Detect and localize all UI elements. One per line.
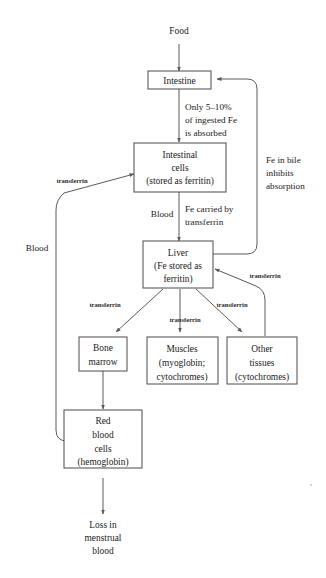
- node-label-rbc-2: blood: [92, 430, 114, 440]
- node-label-intestine: Intestine: [163, 76, 195, 86]
- node-label-loss-3: blood: [92, 546, 114, 556]
- node-label-intestinal-cells-2: cells: [171, 163, 189, 173]
- edge-label-transferrin-bone: transferrin: [89, 301, 120, 308]
- edge-label-transferrin-left: transferrin: [56, 177, 87, 184]
- node-label-liver-2: (Fe stored as: [154, 261, 202, 272]
- edge-label-carried-1: Fe carried by: [185, 204, 234, 214]
- node-label-loss-2: menstrual: [85, 533, 122, 543]
- edge-label-bile-1: Fe in bile: [266, 155, 301, 165]
- node-label-muscles-2: (myoglobin;: [159, 358, 205, 369]
- edge-label-carried-2: transferrin: [185, 217, 224, 227]
- node-label-other-tissues-2: tissues: [249, 358, 274, 368]
- node-label-bone-marrow-2: marrow: [88, 357, 117, 367]
- node-label-muscles-3: cytochromes): [156, 372, 207, 383]
- edge-label-transferrin-return: transferrin: [249, 272, 280, 279]
- edge-label-blood-to-liver: Blood: [151, 209, 174, 219]
- node-label-intestinal-cells-1: Intestinal: [163, 150, 198, 160]
- edge-liver-to-other-tissues: [196, 289, 242, 332]
- node-label-other-tissues-1: Other: [251, 344, 273, 354]
- node-label-rbc-3: cells: [94, 444, 112, 454]
- edge-label-absorption-1: Only 5–10%: [185, 102, 232, 112]
- edge-label-absorption-3: is absorbed: [185, 128, 227, 138]
- edge-label-transferrin-other: transferrin: [216, 301, 247, 308]
- edge-liver-to-bone-marrow: [116, 289, 163, 332]
- node-label-muscles-1: Muscles: [166, 344, 198, 354]
- edge-label-blood-left: Blood: [26, 243, 49, 253]
- node-label-food: Food: [169, 26, 189, 36]
- node-label-rbc-4: (hemoglobin): [77, 457, 128, 468]
- node-label-loss-1: Loss in: [89, 520, 117, 530]
- node-label-intestinal-cells-3: (stored as ferritin): [146, 176, 214, 187]
- scan-speck: [310, 484, 312, 486]
- flowchart-canvas: Food Intestine Intestinal cells (stored …: [0, 0, 326, 578]
- node-label-bone-marrow-1: Bone: [93, 343, 113, 353]
- node-label-liver-1: Liver: [168, 248, 189, 258]
- node-label-rbc-1: Red: [95, 416, 110, 426]
- edge-label-bile-2: inhibits: [266, 168, 294, 178]
- node-label-liver-3: ferritin): [163, 274, 192, 285]
- iron-metabolism-flowchart: Food Intestine Intestinal cells (stored …: [0, 0, 326, 578]
- edge-label-transferrin-muscles: transferrin: [169, 316, 200, 323]
- node-label-other-tissues-3: (cytochromes): [235, 372, 289, 383]
- edge-label-absorption-2: of ingested Fe: [185, 115, 237, 125]
- edge-label-bile-3: absorption: [266, 181, 305, 191]
